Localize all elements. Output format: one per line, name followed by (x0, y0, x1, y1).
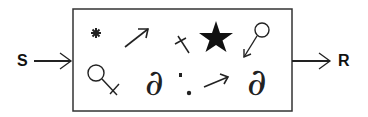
input-arrow (34, 53, 71, 69)
output-label: R (338, 53, 350, 69)
output-arrow (292, 53, 330, 69)
input-label: S (17, 53, 28, 69)
partial-derivative-left-icon: ∂ (145, 62, 164, 103)
diagram-canvas: ∂ ∂ (0, 0, 368, 117)
partial-derivative-right-icon: ∂ (247, 60, 267, 104)
asterisk-icon (91, 28, 101, 38)
